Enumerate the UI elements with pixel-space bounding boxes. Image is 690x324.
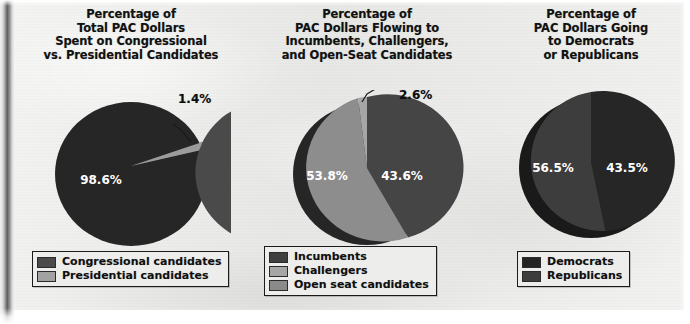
legend-label-presidential: Presidential candidates [62,270,208,282]
pie-value-label-538: 53.8% [306,169,348,183]
pie-figure-1: 98.6% [26,90,236,250]
pie-figure-2: 53.8% 43.6% [262,90,472,250]
legend-label-open-seat: Open seat candidates [294,279,429,291]
legend-swatch-open-seat-icon [269,280,288,291]
pie-callout-1-4: 1.4% [178,92,211,106]
legend-swatch-incumbents-icon [269,252,288,263]
legend-label-challengers: Challengers [294,265,367,277]
scan-fade-top-edge [0,0,690,6]
chart-title-2: Percentage of PAC Dollars Flowing to Inc… [262,8,472,62]
scan-shadow-left-edge [0,0,14,324]
legend-item-democrats[interactable]: Democrats [522,255,622,269]
chart-title-1: Percentage of Total PAC Dollars Spent on… [26,8,236,62]
legend-label-democrats: Democrats [547,256,614,268]
figure-page: Percentage of Total PAC Dollars Spent on… [0,0,690,324]
pie-chart-panel-congressional-vs-presidential: Percentage of Total PAC Dollars Spent on… [26,8,236,298]
pie-figure-3: 56.5% 43.5% [486,86,690,246]
legend-label-incumbents: Incumbents [294,251,367,263]
pie-chart-panel-democrats-republicans: Percentage of PAC Dollars Going to Democ… [486,8,690,298]
pie-value-label-986: 98.6% [80,173,122,187]
legend-item-open-seat[interactable]: Open seat candidates [269,278,429,292]
pie-value-label-435: 43.5% [606,161,648,175]
legend-swatch-presidential-icon [37,271,56,282]
scan-fade-right-edge [680,0,690,324]
legend-chart-3: Democrats Republicans [517,251,630,287]
chart-title-3: Percentage of PAC Dollars Going to Democ… [486,8,690,62]
pie-svg-1: 98.6% [31,90,231,250]
legend-label-congressional: Congressional candidates [62,256,221,268]
legend-item-challengers[interactable]: Challengers [269,264,429,278]
legend-item-republicans[interactable]: Republicans [522,269,622,283]
pie-svg-3: 56.5% 43.5% [491,86,690,246]
legend-swatch-democrats-icon [522,257,541,268]
pie-callout-2-6: 2.6% [399,88,432,102]
legend-swatch-congressional-icon [37,257,56,268]
legend-item-incumbents[interactable]: Incumbents [269,250,429,264]
pie-value-label-565: 56.5% [532,161,574,175]
legend-label-republicans: Republicans [547,270,622,282]
legend-swatch-challengers-icon [269,266,288,277]
pie-chart-panel-incumbents-challengers-openseat: Percentage of PAC Dollars Flowing to Inc… [262,8,472,298]
legend-item-congressional[interactable]: Congressional candidates [37,255,221,269]
pie-svg-2: 53.8% 43.6% [267,90,467,250]
legend-chart-2: Incumbents Challengers Open seat candida… [264,246,437,296]
pie-value-label-436: 43.6% [381,169,423,183]
legend-swatch-republicans-icon [522,271,541,282]
legend-chart-1: Congressional candidates Presidential ca… [32,251,229,287]
pie-base-shadow [55,102,207,246]
legend-item-presidential[interactable]: Presidential candidates [37,269,221,283]
scan-fade-bottom-edge [0,308,690,324]
